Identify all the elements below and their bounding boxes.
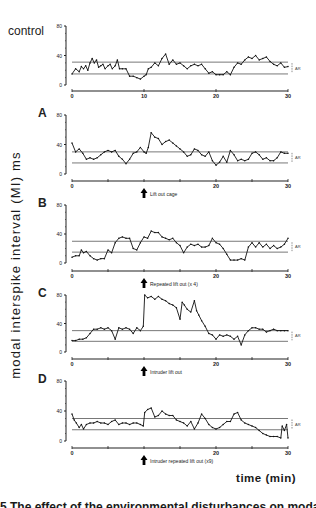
- x-tick-label: 20: [213, 183, 219, 189]
- x-tick-label: 30: [285, 450, 291, 456]
- x-tick-label: 0: [70, 93, 73, 99]
- ar-label: AR: [295, 155, 301, 160]
- x-tick-label: 30: [285, 93, 291, 99]
- x-tick-label: 0: [70, 183, 73, 189]
- ar-label: AR: [295, 66, 301, 71]
- x-tick-label: 0: [70, 450, 73, 456]
- panel-label: control: [8, 24, 44, 38]
- panel-c: C0408002030ARIntruder lift out: [38, 286, 301, 376]
- x-tick-label: 0: [70, 361, 73, 367]
- event-annotation: Repeated lift out (x 4): [150, 281, 198, 287]
- x-axis-label: time (min): [236, 472, 296, 484]
- panel-b: B0408002030ARRepeated lift out (x 4): [38, 196, 301, 288]
- panel-label: C: [38, 286, 47, 300]
- y-tick-label: 40: [56, 231, 62, 237]
- x-tick-label: 20: [213, 361, 219, 367]
- x-tick-label: 10: [141, 93, 147, 99]
- x-tick-label: 20: [213, 450, 219, 456]
- ar-label: AR: [295, 422, 301, 427]
- y-tick-label: 80: [56, 112, 62, 118]
- y-tick-label: 40: [56, 142, 62, 148]
- x-tick-label: 30: [285, 361, 291, 367]
- event-annotation: Intruder lift out: [150, 369, 183, 375]
- y-axis-label: modal interspike interval (MI) ms: [4, 140, 26, 390]
- x-tick-label: 20: [213, 273, 219, 279]
- event-annotation: Lift out cage: [150, 191, 177, 197]
- ar-label: AR: [295, 244, 301, 249]
- x-tick-label: 30: [285, 273, 291, 279]
- y-tick-label: 0: [59, 349, 62, 355]
- panel-label: B: [38, 196, 47, 210]
- arrow-up-icon: [141, 188, 148, 198]
- y-tick-label: 0: [59, 82, 62, 88]
- y-tick-label: 0: [59, 438, 62, 444]
- y-tick-label: 40: [56, 53, 62, 59]
- panel-a: A0408002030ARLift out cage: [38, 106, 301, 198]
- y-tick-label: 40: [56, 408, 62, 414]
- arrow-up-icon: [141, 455, 148, 465]
- y-tick-label: 0: [59, 171, 62, 177]
- x-tick-label: 20: [213, 93, 219, 99]
- y-tick-label: 80: [56, 292, 62, 298]
- panel-d: D0408002030ARIntruder repeated lift out …: [38, 372, 301, 465]
- ar-label: AR: [295, 333, 301, 338]
- x-tick-label: 0: [70, 273, 73, 279]
- event-annotation: Intruder repeated lift out (x9): [150, 458, 213, 464]
- y-axis-label-text: modal interspike interval (MI) ms: [8, 151, 23, 378]
- figure-caption: 5 The effect of the environmental distur…: [0, 500, 316, 508]
- panel-control: control040800102030AR: [8, 23, 301, 99]
- y-tick-label: 80: [56, 23, 62, 29]
- arrow-up-icon: [141, 278, 148, 288]
- y-tick-label: 0: [59, 260, 62, 266]
- arrow-up-icon: [141, 366, 148, 376]
- y-tick-label: 80: [56, 202, 62, 208]
- y-tick-label: 40: [56, 321, 62, 327]
- y-tick-label: 80: [56, 378, 62, 384]
- data-trace: [72, 54, 288, 79]
- x-tick-label: 30: [285, 183, 291, 189]
- panel-label: D: [38, 372, 47, 386]
- figure-canvas: control040800102030ARA0408002030ARLift o…: [0, 0, 316, 508]
- panel-label: A: [38, 106, 47, 120]
